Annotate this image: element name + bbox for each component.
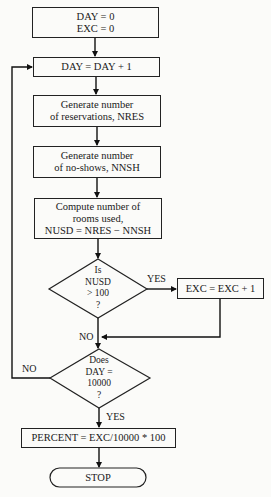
- day-line-4: ?: [74, 390, 124, 402]
- gen-reservations-line-1: Generate number: [61, 99, 134, 111]
- init-line-2: EXC = 0: [77, 23, 114, 35]
- day-yes-label: YES: [106, 411, 125, 423]
- nusd-line-4: ?: [73, 300, 123, 312]
- increment-exc-text: EXC = EXC + 1: [186, 283, 256, 295]
- day-line-2: DAY =: [74, 367, 124, 379]
- decision-nusd-text: Is NUSD > 100 ?: [73, 265, 123, 311]
- compute-line-1: Compute number of: [56, 201, 141, 213]
- increment-day-text: DAY = DAY + 1: [61, 61, 131, 73]
- compute-rooms-box: Compute number of rooms used, NUSD = NRE…: [34, 198, 162, 239]
- nusd-line-2: NUSD: [73, 277, 123, 289]
- percent-box: PERCENT = EXC/10000 * 100: [21, 428, 176, 448]
- nusd-line-3: > 100: [73, 288, 123, 300]
- nusd-no-label: NO: [79, 331, 93, 343]
- init-box: DAY = 0 EXC = 0: [32, 7, 159, 38]
- day-no-label: NO: [22, 363, 36, 375]
- nusd-yes-label: YES: [147, 273, 166, 285]
- compute-line-3: NUSD = NRES − NNSH: [45, 225, 151, 237]
- decision-day-text: Does DAY = 10000 ?: [74, 355, 124, 401]
- increment-exc-box: EXC = EXC + 1: [177, 278, 264, 299]
- stop-label: STOP: [50, 472, 146, 484]
- generate-noshows-box: Generate number of no-shows, NNSH: [33, 146, 161, 178]
- gen-noshows-line-1: Generate number: [61, 150, 134, 162]
- percent-text: PERCENT = EXC/10000 * 100: [31, 432, 165, 444]
- compute-line-2: rooms used,: [73, 213, 124, 225]
- nusd-line-1: Is: [73, 265, 123, 277]
- init-line-1: DAY = 0: [77, 11, 115, 23]
- gen-noshows-line-2: of no-shows, NNSH: [54, 162, 139, 174]
- increment-day-box: DAY = DAY + 1: [33, 57, 160, 77]
- day-line-3: 10000: [74, 378, 124, 390]
- gen-reservations-line-2: of reservations, NRES: [50, 111, 144, 123]
- generate-reservations-box: Generate number of reservations, NRES: [33, 95, 161, 127]
- day-line-1: Does: [74, 355, 124, 367]
